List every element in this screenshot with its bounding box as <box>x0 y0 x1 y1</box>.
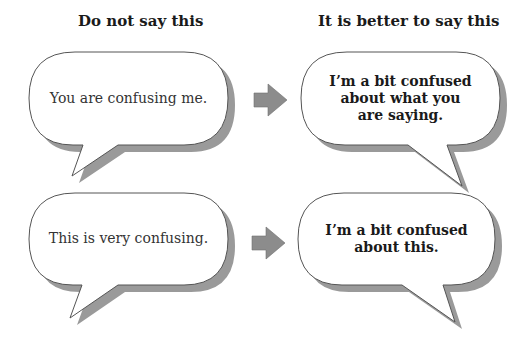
avoid-phrase-1: You are confusing me. <box>29 52 228 145</box>
right-arrow-icon <box>254 84 287 116</box>
better-phrase-2: I’m a bit confused about this. <box>298 193 495 285</box>
better-phrase-1-line-1: I’m a bit confused <box>329 73 471 90</box>
avoid-phrase-2: This is very confusing. <box>29 193 228 285</box>
better-phrase-1-line-3: are saying. <box>358 107 443 124</box>
better-phrase-2-line-1: I’m a bit confused <box>325 222 467 239</box>
better-phrase-2-line-2: about this. <box>354 239 438 256</box>
right-arrow-icon <box>252 227 285 259</box>
better-phrase-1-line-2: about what you <box>340 90 460 107</box>
better-phrase-1: I’m a bit confused about what you are sa… <box>301 52 500 145</box>
